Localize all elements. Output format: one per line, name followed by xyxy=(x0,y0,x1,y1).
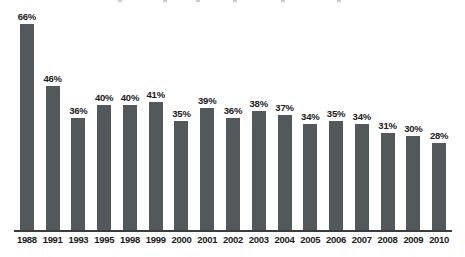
bar-group: 30% xyxy=(400,0,426,230)
bar-value-label: 39% xyxy=(198,95,216,106)
bar-group: 46% xyxy=(40,0,66,230)
x-axis-line xyxy=(14,230,452,232)
x-axis-tick-label: 2001 xyxy=(194,234,220,245)
x-axis-tick-label: 1988 xyxy=(14,234,40,245)
bar-value-label: 35% xyxy=(172,108,190,119)
x-axis-tick-label: 1995 xyxy=(91,234,117,245)
bar-value-label: 31% xyxy=(378,120,396,131)
bar-group: 39% xyxy=(194,0,220,230)
bar-value-label: 36% xyxy=(224,105,242,116)
x-axis-tick-label: 2010 xyxy=(426,234,452,245)
bar-group: 36% xyxy=(66,0,92,230)
x-axis-tick-label: 2008 xyxy=(375,234,401,245)
x-axis-tick-label: 2000 xyxy=(169,234,195,245)
bar: 28% xyxy=(432,143,446,230)
bar-group: 34% xyxy=(349,0,375,230)
bar: 38% xyxy=(252,111,266,230)
bar-value-label: 40% xyxy=(95,92,113,103)
bar: 35% xyxy=(174,121,188,230)
x-axis-tick-label: 2006 xyxy=(323,234,349,245)
bar: 36% xyxy=(71,118,85,230)
x-axis-tick-label: 2005 xyxy=(297,234,323,245)
plot-area: 66%46%36%40%40%41%35%39%36%38%37%34%35%3… xyxy=(14,0,452,230)
bar-group: 35% xyxy=(323,0,349,230)
x-axis-tick-labels: 1988199119931995199819992000200120022003… xyxy=(14,234,452,250)
bar: 66% xyxy=(20,24,34,230)
bar-value-label: 35% xyxy=(327,108,345,119)
bar-value-label: 46% xyxy=(43,73,61,84)
bar-group: 66% xyxy=(14,0,40,230)
bar-value-label: 34% xyxy=(301,111,319,122)
bar-group: 38% xyxy=(246,0,272,230)
x-axis-tick-label: 2007 xyxy=(349,234,375,245)
bar: 34% xyxy=(355,124,369,230)
bar: 37% xyxy=(278,115,292,230)
bar-group: 28% xyxy=(426,0,452,230)
bar: 39% xyxy=(200,108,214,230)
bar: 41% xyxy=(149,102,163,230)
bar-value-label: 37% xyxy=(275,102,293,113)
bar: 31% xyxy=(381,133,395,230)
bar: 35% xyxy=(329,121,343,230)
x-axis-tick-label: 1999 xyxy=(143,234,169,245)
x-axis-tick-label: 1998 xyxy=(117,234,143,245)
bar-group: 37% xyxy=(272,0,298,230)
bar-value-label: 34% xyxy=(353,111,371,122)
x-axis-tick-label: 2004 xyxy=(272,234,298,245)
bar: 46% xyxy=(46,86,60,230)
bar-group: 40% xyxy=(91,0,117,230)
bar-value-label: 40% xyxy=(121,92,139,103)
bar-group: 40% xyxy=(117,0,143,230)
bar: 30% xyxy=(406,136,420,230)
x-axis-tick-label: 1991 xyxy=(40,234,66,245)
bar-value-label: 28% xyxy=(430,130,448,141)
bar-value-label: 36% xyxy=(69,105,87,116)
bar-value-label: 38% xyxy=(250,98,268,109)
bar-chart: 66%46%36%40%40%41%35%39%36%38%37%34%35%3… xyxy=(0,0,465,257)
bar: 36% xyxy=(226,118,240,230)
bar-group: 36% xyxy=(220,0,246,230)
bar-group: 35% xyxy=(169,0,195,230)
x-axis-tick-label: 2009 xyxy=(400,234,426,245)
bar-value-label: 66% xyxy=(18,11,36,22)
bar-value-label: 41% xyxy=(146,89,164,100)
bar: 40% xyxy=(97,105,111,230)
bar-group: 34% xyxy=(297,0,323,230)
x-axis-tick-label: 2002 xyxy=(220,234,246,245)
x-axis-tick-label: 2003 xyxy=(246,234,272,245)
bar: 34% xyxy=(303,124,317,230)
x-axis-tick-label: 1993 xyxy=(66,234,92,245)
bar: 40% xyxy=(123,105,137,230)
bar-value-label: 30% xyxy=(404,123,422,134)
bar-group: 41% xyxy=(143,0,169,230)
bar-group: 31% xyxy=(375,0,401,230)
